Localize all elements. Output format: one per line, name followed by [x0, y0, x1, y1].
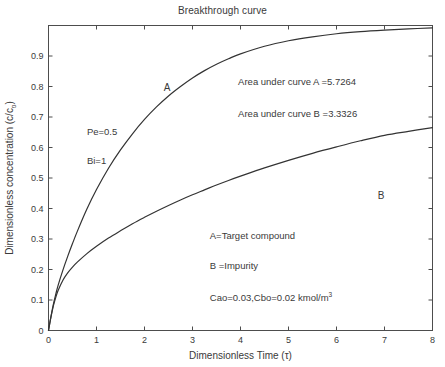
x-tick-label: 0: [46, 335, 51, 345]
y-tick-label: 0.8: [31, 82, 44, 92]
y-tick-label: 0.1: [31, 295, 44, 305]
y-tick-label: 0.4: [31, 204, 44, 214]
annotation-target-compound: A=Target compound: [210, 230, 295, 241]
y-tick-label: 0.2: [31, 265, 44, 275]
y-tick-label: 0.5: [31, 173, 44, 183]
x-tick-label: 6: [334, 335, 339, 345]
y-tick-label: 0.3: [31, 234, 44, 244]
y-tick-label: 0.7: [31, 112, 44, 122]
annotation-area-b: Area under curve B =3.3326: [238, 108, 357, 119]
x-axis-title: Dimensionless Time (τ): [189, 350, 292, 361]
curve-label-a: A: [164, 82, 171, 93]
y-tick-label: 0.6: [31, 143, 44, 153]
x-tick-label: 4: [238, 335, 243, 345]
y-axis-title: Dimensionless concentration (c/co): [4, 101, 17, 255]
annotation-bi: Bi=1: [87, 155, 106, 166]
x-tick-label: 3: [190, 335, 195, 345]
y-tick-label: 0.9: [31, 51, 44, 61]
x-tick-label: 2: [142, 335, 147, 345]
figure-container: Breakthrough curve 01234567800.10.20.30.…: [0, 0, 445, 367]
annotation-area-a: Area under curve A =5.7264: [238, 76, 356, 87]
annotation-concentrations: Cao=0.03,Cbo=0.02 kmol/m3: [210, 291, 333, 303]
x-tick-label: 5: [286, 335, 291, 345]
annotation-pe: Pe=0.5: [87, 126, 117, 137]
breakthrough-curve-plot: 01234567800.10.20.30.40.50.60.70.80.9ABA…: [0, 0, 445, 367]
curve-a: [49, 28, 433, 331]
y-tick-label: 0: [38, 326, 43, 336]
x-tick-label: 8: [430, 335, 435, 345]
curve-label-b: B: [378, 190, 385, 201]
plot-frame: [49, 26, 433, 331]
x-tick-label: 7: [382, 335, 387, 345]
x-tick-label: 1: [94, 335, 99, 345]
annotation-impurity: B =Impurity: [210, 260, 259, 271]
